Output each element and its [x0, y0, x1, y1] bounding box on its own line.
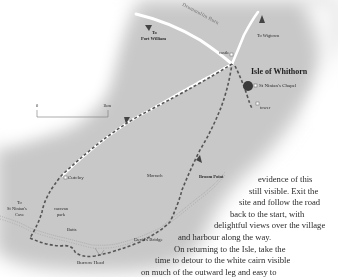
label-devils-bridge: Devil's Bridge	[134, 237, 163, 242]
label-isle-of-whithorn: Isle of Whithorn	[251, 68, 307, 76]
text-line: delightful views over the village	[196, 220, 338, 232]
chapel-marker-icon	[254, 84, 257, 87]
label-to-port-william-2: Port William	[141, 37, 166, 42]
scale-start-label: 0	[36, 104, 38, 109]
label-caravan-park-1: caravan	[54, 207, 68, 212]
text-line: evidence of this	[196, 174, 338, 186]
label-st-ninians-cave-1: To	[17, 201, 22, 206]
scale-end-label: 1km	[103, 104, 111, 109]
label-tower: tower	[260, 106, 270, 111]
label-to-wigtown: To Wigtown	[257, 34, 279, 39]
label-st-ninians-chapel: St Ninian's Chapel	[259, 83, 296, 88]
text-line: on much of the outward leg and easy to	[141, 267, 338, 277]
label-cutcloy: Cutcloy	[68, 175, 84, 180]
label-morrach: Morrach	[147, 174, 163, 179]
text-line: still visible. Exit the	[196, 186, 338, 198]
text-line: site and follow the road	[196, 197, 338, 209]
label-st-ninians-cave-3: Cave	[15, 213, 24, 218]
label-castle: castle	[219, 51, 229, 56]
walk-description: evidence of this still visible. Exit the…	[196, 174, 338, 277]
text-line: time to detour to the white cairn visibl…	[155, 255, 338, 267]
label-caravan-park-2: park	[57, 213, 65, 218]
label-st-ninians-cave-2: St Ninian's	[7, 207, 27, 212]
label-to-port-william-1: To	[152, 31, 157, 36]
text-line: and harbour along the way.	[178, 232, 338, 244]
tower-marker-icon	[256, 102, 259, 105]
castle-marker-icon	[230, 53, 233, 56]
label-butts: Butts	[67, 228, 77, 233]
label-burrow-head: Burrow Head	[77, 260, 104, 265]
cutcloy-marker-icon	[64, 176, 67, 179]
text-line: back to the start, with	[196, 209, 338, 221]
village-marker-icon	[243, 81, 253, 91]
text-line: On returning to the Isle, take the	[174, 244, 338, 256]
